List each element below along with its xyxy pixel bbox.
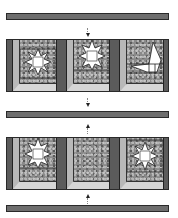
block-row-2 [6, 137, 169, 190]
plain-block-center [74, 138, 110, 181]
star-block-center [20, 40, 56, 83]
block-row-1 [6, 39, 169, 92]
quilt-block-star [114, 138, 168, 189]
arrow-down-icon [86, 28, 90, 38]
star-block-center [127, 138, 163, 181]
quilt-block-star [61, 40, 115, 91]
quilt-block-partial-star [114, 40, 168, 91]
quilt-block-star [7, 138, 61, 189]
star-block-center [20, 138, 56, 181]
sashing-strip-bottom [6, 205, 169, 212]
arrow-up-icon [86, 194, 90, 204]
sashing-strip-top [6, 13, 169, 20]
partial-star-block-center [127, 40, 163, 83]
arrow-up-icon [86, 124, 90, 134]
quilt-block-star [7, 40, 61, 91]
arrow-down-icon [86, 98, 90, 108]
star-block-center [74, 40, 110, 83]
sashing-strip-middle [6, 111, 169, 118]
quilt-block-plain [61, 138, 115, 189]
